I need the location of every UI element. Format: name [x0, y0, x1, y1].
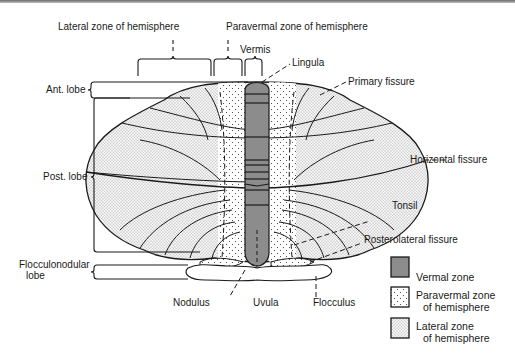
legend-swatch-paravermal	[391, 287, 409, 307]
label-posterolateral-fissure: Posterolateral fissure	[364, 234, 458, 245]
legend-paravermal-line2: of hemisphere	[423, 301, 490, 313]
vermis-strip	[245, 83, 269, 273]
legend-swatch-lateral	[391, 318, 409, 338]
label-lingula: Lingula	[292, 57, 324, 68]
label-tonsil: Tonsil	[392, 200, 418, 211]
legend-lateral-line1: Lateral zone	[416, 320, 474, 332]
label-flocculonodular-line1: Flocculonodular	[19, 259, 90, 270]
label-primary-fissure: Primary fissure	[348, 76, 415, 87]
label-lateral-zone: Lateral zone of hemisphere	[58, 21, 179, 32]
label-flocculus: Flocculus	[313, 297, 355, 308]
legend-swatches	[391, 257, 409, 338]
label-ant-lobe: Ant. lobe	[46, 84, 85, 95]
legend-paravermal-line1: Paravermal zone	[416, 289, 495, 301]
label-uvula: Uvula	[253, 297, 279, 308]
legend-vermal-label: Vermal zone	[416, 271, 474, 283]
legend-lateral-line2: of hemisphere	[423, 332, 490, 344]
label-nodulus: Nodulus	[173, 297, 210, 308]
flocculonodular-lobe	[186, 265, 332, 281]
legend-swatch-vermal	[391, 257, 409, 277]
label-vermis: Vermis	[240, 44, 271, 55]
label-flocculonodular-line2: lobe	[26, 270, 45, 281]
label-horizontal-fissure: Horizontal fissure	[410, 154, 487, 165]
label-paravermal-zone: Paravermal zone of hemisphere	[226, 21, 368, 32]
label-post-lobe: Post. lobe	[43, 171, 87, 182]
